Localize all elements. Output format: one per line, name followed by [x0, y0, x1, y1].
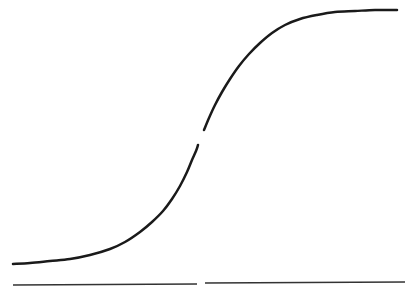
baseline-left-segment: [13, 284, 197, 285]
baseline-right-segment: [205, 282, 405, 283]
chart-background: [0, 0, 410, 296]
figure-container: [0, 0, 410, 296]
chart-canvas: [0, 0, 410, 296]
